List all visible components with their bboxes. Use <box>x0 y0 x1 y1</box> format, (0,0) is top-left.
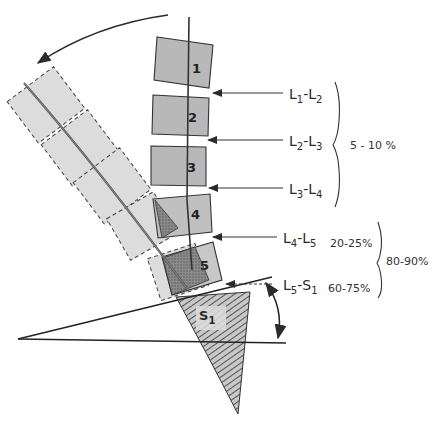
percent-l4-l5: 20-25% <box>330 238 372 249</box>
vertebra-1 <box>154 37 213 88</box>
vertebra-3 <box>151 146 206 186</box>
lumbar-flexion-diagram: 1 2 3 4 5 <box>0 0 445 433</box>
percent-upper-group: 5 - 10 % <box>350 140 396 151</box>
vertebra-5-number: 5 <box>200 258 209 273</box>
percent-l5-s1: 60-75% <box>328 283 370 294</box>
label-s1: S1 <box>199 309 215 326</box>
brace-upper <box>333 82 339 207</box>
vertebra-2-number: 2 <box>188 110 197 125</box>
label-l2-l3: L2-L3 <box>289 134 322 152</box>
percent-lower-group: 80-90% <box>386 256 428 267</box>
sacral-angle-arrow <box>266 283 280 338</box>
vertebra-4-number: 4 <box>191 207 200 222</box>
vertebra-1-number: 1 <box>192 61 201 76</box>
flexion-direction-arrow <box>38 15 168 63</box>
label-l5-s1: L5-S1 <box>283 278 318 296</box>
vertebra-3-number: 3 <box>187 160 196 175</box>
brace-lower <box>377 222 382 298</box>
label-l3-l4: L3-L4 <box>289 182 322 200</box>
vertebra-2 <box>152 95 209 136</box>
label-l1-l2: L1-L2 <box>289 87 322 105</box>
label-l4-l5: L4-L5 <box>283 231 316 249</box>
